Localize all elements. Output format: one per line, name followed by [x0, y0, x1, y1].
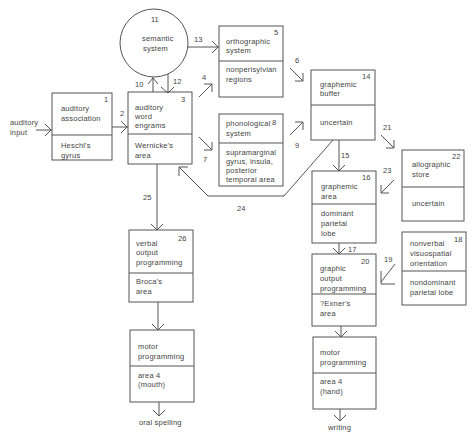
svg-text:uncertain: uncertain: [320, 118, 353, 127]
svg-text:semantic: semantic: [142, 34, 174, 43]
writing-label: writing: [327, 423, 351, 432]
node-motor-programming-hand: motor programming area 4 (hand): [313, 337, 376, 409]
arrow-25: 25: [143, 164, 163, 230]
svg-text:orthographic: orthographic: [226, 37, 270, 46]
arrow-9: 9: [290, 122, 303, 150]
svg-text:nonverbal: nonverbal: [410, 239, 445, 248]
node-orthographic-system: 5 orthographic system nonperisylvian reg…: [219, 26, 283, 97]
svg-text:18: 18: [454, 235, 462, 244]
svg-text:15: 15: [341, 151, 349, 160]
svg-text:26: 26: [178, 234, 186, 243]
svg-text:system: system: [226, 46, 251, 55]
svg-text:19: 19: [384, 255, 392, 264]
svg-text:20: 20: [361, 257, 369, 266]
node-nonverbal-visuospatial: 18 nonverbal visuospatial orientation no…: [402, 232, 466, 305]
arrow-21: 21: [381, 123, 394, 148]
svg-text:10: 10: [135, 80, 143, 89]
svg-text:engrams: engrams: [135, 121, 166, 130]
svg-text:graphemic: graphemic: [320, 80, 357, 89]
auditory-input-label: auditory: [10, 118, 38, 127]
svg-text:area: area: [136, 287, 152, 296]
svg-text:8: 8: [272, 118, 276, 127]
svg-text:nonperisylvian: nonperisylvian: [226, 65, 277, 74]
svg-text:auditory: auditory: [61, 104, 89, 113]
svg-text:16: 16: [362, 173, 370, 182]
svg-text:association: association: [61, 114, 101, 123]
arrow-10: 10: [135, 77, 158, 92]
node-allographic-store: 22 allographic store uncertain: [402, 150, 464, 221]
svg-text:output: output: [136, 248, 159, 257]
svg-text:4: 4: [202, 73, 206, 82]
svg-text:9: 9: [295, 141, 299, 150]
svg-text:system: system: [143, 44, 168, 53]
svg-text:posterior: posterior: [226, 166, 257, 175]
svg-text:graphemic: graphemic: [321, 182, 358, 191]
arrow-to-writing: [334, 409, 346, 421]
svg-text:7: 7: [203, 155, 207, 164]
svg-text:Wernicke's: Wernicke's: [135, 141, 173, 150]
svg-text:Heschl's: Heschl's: [61, 141, 91, 150]
svg-text:24: 24: [237, 204, 245, 213]
svg-text:store: store: [412, 170, 430, 179]
svg-text:gyrus, insula,: gyrus, insula,: [226, 157, 273, 166]
arrow-15: 15: [333, 140, 349, 171]
svg-text:Broca's: Broca's: [136, 277, 162, 286]
svg-text:system: system: [226, 129, 251, 138]
svg-text:word: word: [134, 112, 152, 121]
svg-text:dominant: dominant: [321, 209, 354, 218]
svg-text:25: 25: [143, 193, 151, 202]
svg-text:motor: motor: [138, 342, 158, 351]
svg-text:lobe: lobe: [321, 229, 336, 238]
svg-text:(mouth): (mouth): [138, 380, 166, 389]
node-motor-programming-mouth: motor programming area 4 (mouth): [130, 330, 194, 402]
node-semantic-system: 11 semantic system: [120, 9, 188, 77]
svg-text:graphic: graphic: [320, 264, 346, 273]
svg-text:area 4: area 4: [320, 377, 342, 386]
svg-text:auditory: auditory: [135, 103, 163, 112]
svg-text:temporal area: temporal area: [226, 175, 276, 184]
svg-text:uncertain: uncertain: [412, 199, 445, 208]
node-graphemic-area: 16 graphemic area dominant parietal lobe: [312, 171, 376, 243]
oral-spelling-label: oral spelling: [139, 418, 182, 427]
svg-text:13: 13: [194, 35, 202, 44]
node-verbal-output-programming: 26 verbal output programming Broca's are…: [129, 230, 193, 302]
svg-text:programming: programming: [320, 284, 366, 293]
svg-text:5: 5: [274, 28, 278, 37]
svg-text:23: 23: [383, 166, 391, 175]
svg-text:programming: programming: [320, 358, 366, 367]
svg-text:12: 12: [173, 77, 181, 86]
arrow-verbal-to-motor: [152, 302, 164, 330]
svg-text:programming: programming: [136, 258, 182, 267]
svg-text:21: 21: [383, 123, 391, 132]
node-graphic-output-programming: 20 graphic output programming ?Exner's a…: [312, 254, 376, 326]
svg-text:nondominant: nondominant: [410, 278, 456, 287]
svg-text:area: area: [135, 151, 151, 160]
svg-text:?Exner's: ?Exner's: [320, 299, 351, 308]
svg-text:programming: programming: [138, 352, 184, 361]
svg-text:parietal: parietal: [321, 219, 347, 228]
svg-text:14: 14: [362, 72, 370, 81]
svg-text:17: 17: [348, 245, 356, 254]
svg-text:allographic: allographic: [412, 160, 451, 169]
arrow-17: 17: [333, 243, 356, 254]
arrow-19: 19: [381, 255, 395, 284]
node-phonological-system: 8 phonological system supramarginal gyru…: [219, 114, 283, 186]
svg-text:11: 11: [151, 15, 159, 24]
arrow-7: 7: [199, 137, 212, 164]
arrow-2: 2: [112, 109, 128, 133]
svg-text:output: output: [320, 274, 343, 283]
svg-text:1: 1: [104, 95, 108, 104]
svg-text:3: 3: [181, 95, 185, 104]
arrow-6: 6: [290, 56, 303, 81]
arrow-13: 13: [188, 35, 219, 53]
svg-text:(hand): (hand): [320, 387, 343, 396]
svg-text:phonological: phonological: [226, 119, 271, 128]
svg-text:2: 2: [120, 109, 124, 118]
svg-text:area: area: [321, 192, 337, 201]
node-graphemic-buffer: 14 graphemic buffer uncertain: [311, 70, 375, 140]
svg-text:gyrus: gyrus: [61, 151, 80, 160]
arrow-graphic-to-motor: [335, 326, 347, 337]
svg-text:input: input: [10, 128, 28, 137]
arrow-auditory-input: [36, 124, 52, 136]
node-auditory-association: 1 auditory association Heschl's gyrus: [52, 93, 112, 160]
